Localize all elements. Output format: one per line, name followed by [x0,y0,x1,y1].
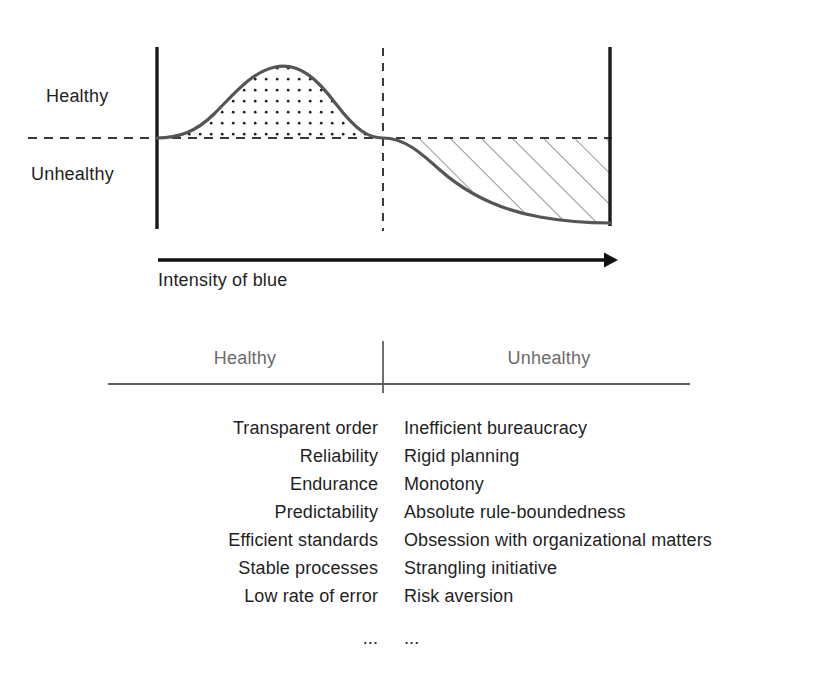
cell-healthy: Transparent order [0,418,378,439]
cell-unhealthy: Inefficient bureaucracy [404,418,587,439]
table-row: Predictability Absolute rule-boundedness [0,502,831,530]
table-row: Reliability Rigid planning [0,446,831,474]
table-row: Endurance Monotony [0,474,831,502]
table-row: Stable processes Strangling initiative [0,558,831,586]
cell-healthy: Low rate of error [0,586,378,607]
cell-healthy: Endurance [0,474,378,495]
table-body: Transparent order Inefficient bureaucrac… [0,418,831,656]
column-header-healthy: Healthy [108,348,382,369]
cell-unhealthy: Absolute rule-boundedness [404,502,626,523]
cell-unhealthy: Monotony [404,474,484,495]
table-row: Low rate of error Risk aversion [0,586,831,614]
cell-unhealthy: Strangling initiative [404,558,557,579]
cell-healthy: Stable processes [0,558,378,579]
cell-unhealthy: Rigid planning [404,446,519,467]
cell-healthy: Efficient standards [0,530,378,551]
x-axis-arrow [158,253,618,268]
intensity-of-blue-chart: Healthy Unhealthy Intensity of blue [0,0,831,310]
axis-label-intensity-of-blue: Intensity of blue [158,270,287,291]
cell-unhealthy: Obsession with organizational matters [404,530,712,551]
table-row: Efficient standards Obsession with organ… [0,530,831,558]
healthy-unhealthy-table: Healthy Unhealthy Transparent order Inef… [0,320,831,698]
table-header-rule [108,383,690,385]
table-row-ellipsis: ... ... [0,628,831,656]
axis-label-unhealthy: Unhealthy [31,164,114,185]
header-column-divider [382,341,384,393]
cell-healthy: Reliability [0,446,378,467]
axis-label-healthy: Healthy [46,86,108,107]
cell-unhealthy: Risk aversion [404,586,513,607]
column-header-unhealthy: Unhealthy [408,348,690,369]
chart-svg [0,0,831,310]
table-row: Transparent order Inefficient bureaucrac… [0,418,831,446]
cell-healthy-ellipsis: ... [0,628,378,649]
cell-unhealthy-ellipsis: ... [404,628,419,649]
cell-healthy: Predictability [0,502,378,523]
